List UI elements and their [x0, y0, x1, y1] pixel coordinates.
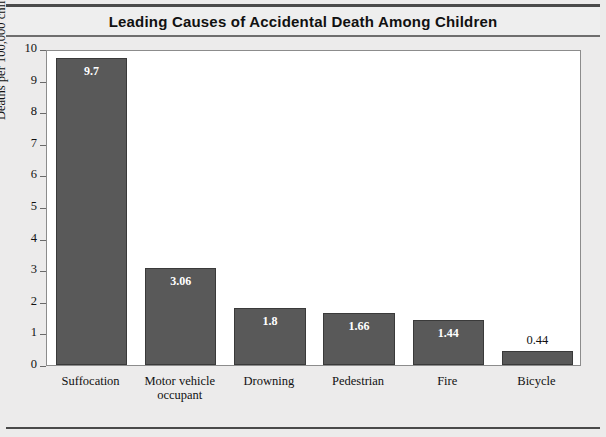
- x-axis-tick-label: Pedestrian: [314, 374, 403, 388]
- x-axis-tick-label-line: Fire: [403, 374, 492, 388]
- y-axis-tick-label: 1: [31, 325, 37, 340]
- x-axis-tick-label-line: Suffocation: [46, 374, 135, 388]
- y-axis-tick-label: 8: [31, 104, 37, 119]
- y-axis-tick-label: 7: [31, 136, 37, 151]
- x-axis-tick-label-line: Pedestrian: [314, 374, 403, 388]
- bar-value-label: 3.06: [146, 274, 215, 289]
- x-axis-tick-label: Suffocation: [46, 374, 135, 388]
- chart-title-band: Leading Causes of Accidental Death Among…: [6, 7, 600, 35]
- y-axis-tick-mark: [40, 50, 46, 51]
- y-axis-tick-mark: [40, 334, 46, 335]
- x-axis-tick-label-line: Motor vehicle: [135, 374, 224, 388]
- bar: 1.8: [234, 308, 305, 365]
- y-axis-tick-mark: [40, 176, 46, 177]
- y-axis-tick-mark: [40, 366, 46, 367]
- bar-value-label: 1.44: [414, 326, 483, 341]
- y-axis-tick-mark: [40, 303, 46, 304]
- page-title: Leading Causes of Accidental Death Among…: [109, 13, 498, 30]
- title-rule-bottom: [6, 35, 600, 37]
- x-axis-tick-label-line: Drowning: [224, 374, 313, 388]
- x-axis-tick-label: Bicycle: [492, 374, 581, 388]
- x-axis-tick-label: Drowning: [224, 374, 313, 388]
- bar: 1.66: [323, 313, 394, 365]
- y-axis-tick-label: 9: [31, 73, 37, 88]
- y-axis-tick-label: 2: [31, 294, 37, 309]
- y-axis-tick-label: 0: [31, 357, 37, 372]
- footer-rule: [6, 427, 600, 429]
- y-axis-tick-mark: [40, 113, 46, 114]
- y-axis-title: Deaths per 100,000 children: [0, 0, 9, 120]
- y-axis-tick-mark: [40, 82, 46, 83]
- y-axis-tick-label: 5: [31, 199, 37, 214]
- x-axis-tick-label: Fire: [403, 374, 492, 388]
- bar-value-label: 1.66: [324, 319, 393, 334]
- bar-value-label: 9.7: [57, 64, 126, 79]
- plot-inner: 9.73.061.81.661.440.44: [47, 51, 580, 365]
- bar: 1.44: [413, 320, 484, 366]
- y-axis-tick-label: 3: [31, 262, 37, 277]
- chart-figure: Leading Causes of Accidental Death Among…: [0, 0, 606, 437]
- x-axis-tick-label: Motor vehicleoccupant: [135, 374, 224, 402]
- y-axis-tick-mark: [40, 208, 46, 209]
- bar-value-label: 1.8: [235, 314, 304, 329]
- y-axis-tick-mark: [40, 145, 46, 146]
- bar: [502, 351, 573, 365]
- y-axis-tick-mark: [40, 240, 46, 241]
- y-axis-tick-label: 6: [31, 167, 37, 182]
- x-axis-tick-label-line: occupant: [135, 388, 224, 402]
- x-axis-tick-label-line: Bicycle: [492, 374, 581, 388]
- bar: 9.7: [56, 58, 127, 365]
- y-axis-tick-mark: [40, 271, 46, 272]
- bar-value-label: 0.44: [502, 333, 573, 348]
- y-axis-tick-label: 10: [25, 41, 38, 56]
- y-axis-tick-label: 4: [31, 231, 37, 246]
- plot-area: 9.73.061.81.661.440.44: [46, 50, 581, 366]
- bar: 3.06: [145, 268, 216, 365]
